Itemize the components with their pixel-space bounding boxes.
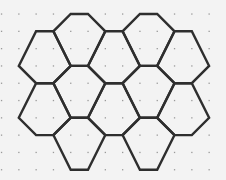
grid-dot: [209, 31, 210, 32]
grid-dot: [18, 13, 19, 14]
grid-dot: [1, 31, 2, 32]
grid-dot: [191, 13, 192, 14]
grid-dot: [36, 65, 37, 66]
grid-dot: [18, 48, 19, 49]
grid-dot: [18, 152, 19, 153]
grid-dot: [191, 152, 192, 153]
grid-dot: [122, 169, 123, 170]
grid-dot: [191, 65, 192, 66]
grid-dot: [70, 152, 71, 153]
grid-dot: [122, 48, 123, 49]
grid-dot: [139, 152, 140, 153]
grid-dot: [174, 13, 175, 14]
grid-dot: [122, 100, 123, 101]
grid-dot: [53, 100, 54, 101]
grid-dot: [36, 48, 37, 49]
grid-dot: [191, 100, 192, 101]
grid-dot: [36, 100, 37, 101]
grid-dot: [87, 152, 88, 153]
grid-dot: [53, 117, 54, 118]
grid-dot: [157, 135, 158, 136]
grid-dot: [191, 169, 192, 170]
grid-dot: [209, 100, 210, 101]
grid-dot: [174, 169, 175, 170]
grid-dot: [139, 100, 140, 101]
grid-dot: [87, 31, 88, 32]
grid-dot: [139, 48, 140, 49]
grid-dot: [122, 152, 123, 153]
grid-dot: [53, 65, 54, 66]
grid-dot: [70, 135, 71, 136]
grid-dot: [105, 48, 106, 49]
grid-dot: [139, 31, 140, 32]
grid-dot: [174, 152, 175, 153]
grid-dot: [174, 117, 175, 118]
grid-dot: [174, 100, 175, 101]
grid-dot: [53, 48, 54, 49]
grid-dot: [70, 48, 71, 49]
grid-dot: [18, 100, 19, 101]
grid-dot: [70, 100, 71, 101]
grid-dot: [122, 117, 123, 118]
grid-dot: [209, 13, 210, 14]
grid-dot: [87, 100, 88, 101]
grid-dot: [191, 48, 192, 49]
grid-dot: [1, 65, 2, 66]
grid-dot: [174, 48, 175, 49]
grid-dot: [70, 83, 71, 84]
grid-dot: [87, 48, 88, 49]
grid-dot: [139, 83, 140, 84]
grid-dot: [174, 65, 175, 66]
grid-dot: [105, 152, 106, 153]
grid-dot: [36, 13, 37, 14]
grid-dot: [157, 152, 158, 153]
grid-dot: [1, 117, 2, 118]
grid-dot: [105, 13, 106, 14]
grid-dot: [53, 152, 54, 153]
grid-dot: [1, 48, 2, 49]
grid-dot: [157, 48, 158, 49]
grid-dot: [1, 152, 2, 153]
grid-dot: [1, 83, 2, 84]
grid-dot: [209, 135, 210, 136]
grid-dot: [18, 169, 19, 170]
grid-dot: [139, 135, 140, 136]
grid-dot: [18, 83, 19, 84]
grid-dot: [105, 65, 106, 66]
grid-dot: [18, 31, 19, 32]
grid-dot: [1, 135, 2, 136]
grid-dot: [36, 117, 37, 118]
grid-dot: [105, 169, 106, 170]
grid-dot: [18, 135, 19, 136]
grid-dot: [105, 117, 106, 118]
tiling-diagram: [0, 0, 226, 180]
grid-dot: [1, 169, 2, 170]
grid-dot: [53, 169, 54, 170]
grid-dot: [53, 13, 54, 14]
grid-dot: [1, 13, 2, 14]
grid-dot: [122, 13, 123, 14]
grid-dot: [122, 65, 123, 66]
grid-dot: [87, 135, 88, 136]
grid-dot: [70, 31, 71, 32]
grid-dot: [191, 117, 192, 118]
grid-dot: [105, 100, 106, 101]
grid-dot: [157, 83, 158, 84]
grid-dot: [209, 152, 210, 153]
grid-dot: [209, 83, 210, 84]
tiling-svg: [0, 0, 226, 180]
grid-dot: [209, 169, 210, 170]
grid-dot: [209, 48, 210, 49]
grid-dot: [1, 100, 2, 101]
grid-dot: [157, 31, 158, 32]
grid-dot: [36, 152, 37, 153]
grid-dot: [36, 169, 37, 170]
grid-dot: [157, 100, 158, 101]
grid-dot: [87, 83, 88, 84]
